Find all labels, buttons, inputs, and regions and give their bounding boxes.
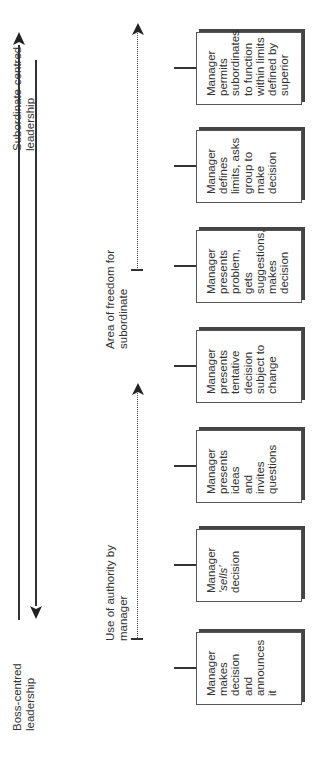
box-text: decision: [266, 134, 278, 194]
freedom-dotted-line: [137, 33, 138, 270]
box-text: within limits: [254, 36, 266, 96]
box-text: Manager: [205, 533, 217, 593]
subordinate-centred-label: Subordinate-centred leadership: [11, 47, 37, 151]
label-line: manager: [117, 545, 130, 641]
box-text: invites: [254, 434, 266, 494]
box-connector: [174, 667, 196, 669]
box-text: suggestions,: [254, 234, 266, 294]
box-text: questions: [266, 434, 278, 494]
authority-label: Use of authority by manager: [104, 545, 130, 641]
box-text: Manager: [205, 636, 217, 696]
box-connector: [174, 265, 196, 267]
box-text: presents: [217, 234, 229, 294]
box-5-problem-suggestions: Manager presents problem, gets suggestio…: [196, 230, 302, 303]
leadership-continuum-diagram: Boss-centred leadership Subordinate-cent…: [0, 0, 326, 761]
box-text: decision: [242, 334, 254, 394]
box-text: permits: [217, 36, 229, 96]
box-text: gets: [242, 234, 254, 294]
box-2-sell: Manager 'sells' decision: [196, 529, 302, 602]
label-line: subordinate: [117, 250, 130, 349]
arrowhead-freedom-icon: [132, 21, 144, 35]
freedom-label: Area of freedom for subordinate: [104, 250, 130, 349]
box-6-defines-limits: Manager defines limits, asks group to ma…: [196, 130, 302, 203]
box-text: problem,: [229, 234, 241, 294]
box-text: it: [266, 636, 278, 696]
box-text: limits, asks: [229, 134, 241, 194]
box-7-permits-subordinates: Manager permits subordinates to function…: [196, 32, 302, 105]
box-connector: [174, 465, 196, 467]
box-connector: [174, 365, 196, 367]
box-text: defined by: [266, 36, 278, 96]
box-text: presents: [217, 434, 229, 494]
box-text: presents: [217, 334, 229, 394]
box-text: tentative: [229, 334, 241, 394]
box-connector: [174, 564, 196, 566]
box-text: decision: [229, 636, 241, 696]
box-text: 'sells': [217, 533, 229, 593]
box-4-tentative-decision: Manager presents tentative decision subj…: [196, 330, 302, 403]
box-connector: [174, 67, 196, 69]
box-text: and: [242, 636, 254, 696]
box-3-consult-ideas: Manager presents ideas and invites quest…: [196, 430, 302, 503]
box-text: Manager: [205, 134, 217, 194]
box-text: makes: [266, 234, 278, 294]
arrowhead-right-icon: [13, 31, 25, 45]
box-text: decision: [229, 533, 241, 593]
label-line: Boss-centred: [11, 663, 24, 731]
boss-centred-label: Boss-centred leadership: [11, 663, 37, 731]
box-text: Manager: [205, 36, 217, 96]
authority-dotted-line: [137, 393, 138, 639]
label-line: leadership: [24, 663, 37, 731]
box-text: change: [266, 334, 278, 394]
box-text: ideas: [229, 434, 241, 494]
box-text: superior: [278, 36, 290, 96]
label-line: Area of freedom for: [104, 250, 117, 349]
label-line: Use of authority by: [104, 545, 117, 641]
arrowhead-authority-icon: [132, 381, 144, 395]
box-text: to function: [242, 36, 254, 96]
box-text: and: [242, 434, 254, 494]
box-text: defines: [217, 134, 229, 194]
box-1-tell: Manager makes decision and announces it: [196, 632, 302, 705]
box-text: Manager: [205, 434, 217, 494]
box-text: make: [254, 134, 266, 194]
box-text: announces: [254, 636, 266, 696]
box-text: Manager: [205, 234, 217, 294]
box-text: makes: [217, 636, 229, 696]
box-text: decision: [278, 234, 290, 294]
box-text: group to: [242, 134, 254, 194]
box-text: subordinates: [229, 36, 241, 96]
arrow-line-to-boss: [35, 60, 37, 606]
box-text: Manager: [205, 334, 217, 394]
arrow-line-to-subordinate: [18, 45, 20, 620]
box-text: subject to: [254, 334, 266, 394]
box-connector: [174, 165, 196, 167]
arrowhead-left-icon: [30, 606, 42, 620]
